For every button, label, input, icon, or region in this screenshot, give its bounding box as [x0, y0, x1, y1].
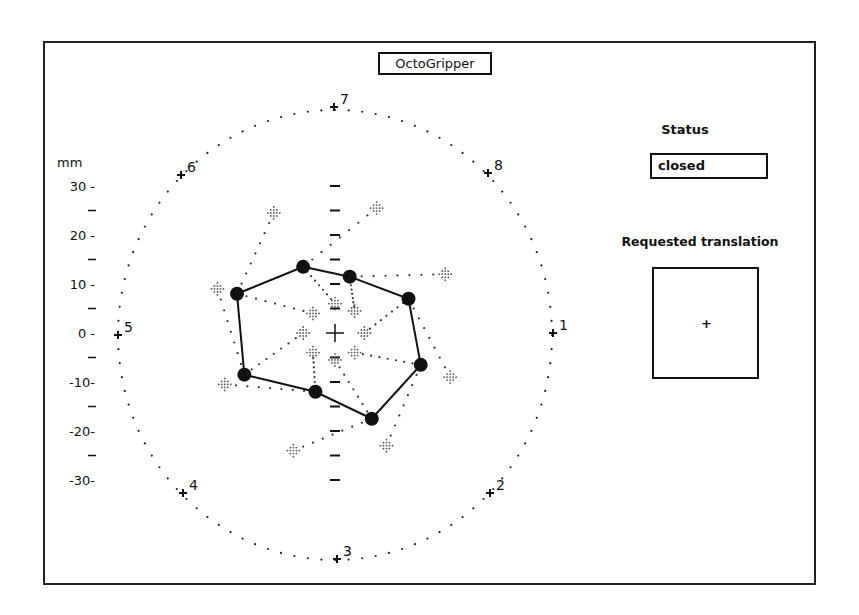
workspace-dot	[492, 488, 494, 490]
workspace-dot	[524, 442, 526, 444]
finger-tip-node[interactable]	[402, 292, 416, 306]
finger-tip-node[interactable]	[343, 270, 357, 284]
axis-tick-label: 0 -	[78, 326, 95, 341]
workspace-dot	[280, 552, 282, 554]
workspace-dot	[388, 116, 390, 118]
linkage-dot	[293, 307, 295, 309]
linkage-dot	[372, 275, 374, 277]
translation-pad[interactable]: +	[652, 267, 759, 379]
workspace-dot	[167, 477, 169, 479]
axis-tick-label: -10-	[69, 375, 95, 390]
linkage-dot	[361, 403, 363, 405]
linkage-dot	[223, 309, 225, 311]
workspace-dot	[206, 516, 208, 518]
linkage-dot	[235, 384, 237, 386]
finger-tip-node[interactable]	[237, 368, 251, 382]
workspace-dot	[229, 531, 231, 533]
workspace-dot	[388, 552, 390, 554]
workspace-dot	[438, 137, 440, 139]
linkage-dot	[263, 232, 265, 234]
workspace-dot	[414, 125, 416, 127]
linkage-dot	[314, 381, 316, 383]
linkage-dot	[245, 272, 247, 274]
workspace-dot	[119, 306, 121, 308]
workspace-dot	[307, 557, 309, 559]
linkage-dot	[233, 341, 235, 343]
workspace-dot	[426, 130, 428, 132]
workspace-dot	[176, 488, 178, 490]
linkage-dot	[420, 274, 422, 276]
workspace-dot	[550, 320, 552, 322]
linkage-dot	[413, 307, 415, 309]
workspace-dot	[167, 190, 169, 192]
linkage-dot	[254, 252, 256, 254]
linkage-dot	[391, 310, 393, 312]
workspace-dot	[375, 113, 377, 115]
finger-tip-node[interactable]	[308, 385, 322, 399]
linkage-dot	[230, 331, 232, 333]
linkage-dot	[259, 242, 261, 244]
workspace-dot	[517, 454, 519, 456]
workspace-dot	[138, 238, 140, 240]
workspace-dot	[119, 362, 121, 364]
inner-pad	[348, 346, 362, 360]
workspace-dot	[307, 111, 309, 113]
linkage-dot	[310, 275, 312, 277]
finger-tip-node[interactable]	[296, 260, 310, 274]
linkage-dot	[352, 297, 354, 299]
workspace-dot	[450, 524, 452, 526]
workspace-dot	[547, 292, 549, 294]
workspace-dot	[144, 226, 146, 228]
workspace-dot	[138, 430, 140, 432]
workspace-dot	[121, 376, 123, 378]
linkage-dot	[396, 306, 398, 308]
linkage-dot	[343, 374, 345, 376]
workspace-dot	[293, 113, 295, 115]
linkage-dot	[274, 303, 276, 305]
linkage-dot	[348, 229, 350, 231]
linkage-dot	[390, 434, 392, 436]
finger-tip-node[interactable]	[365, 412, 379, 426]
status-field: closed	[650, 153, 768, 179]
linkage-dot	[320, 251, 322, 253]
linkage-dot	[378, 356, 380, 358]
outer-pad	[267, 206, 281, 220]
workspace-dot	[509, 466, 511, 468]
workspace-dot	[414, 543, 416, 545]
outer-pad	[443, 370, 457, 384]
workspace-dot	[530, 430, 532, 432]
linkage-dot	[313, 376, 315, 378]
linkage-dot	[341, 430, 343, 432]
workspace-dot	[375, 555, 377, 557]
workspace-dot	[117, 320, 119, 322]
linkage-dot	[280, 348, 282, 350]
inner-pad	[306, 307, 320, 321]
linkage-dot	[269, 387, 271, 389]
linkage-dot	[268, 222, 270, 224]
linkage-dot	[348, 381, 350, 383]
workspace-dot	[128, 403, 130, 405]
linkage-dot	[423, 327, 425, 329]
workspace-dot	[132, 417, 134, 419]
finger-base-label: 2	[496, 477, 505, 493]
workspace-dot	[254, 543, 256, 545]
workspace-dot	[185, 498, 187, 500]
outer-pad	[218, 378, 232, 392]
workspace-dot	[218, 144, 220, 146]
linkage-dot	[258, 386, 260, 388]
linkage-dot	[255, 298, 257, 300]
workspace-dot	[540, 264, 542, 266]
workspace-dot	[472, 507, 474, 509]
axis-tick-label: -30-	[69, 473, 95, 488]
workspace-dot	[132, 251, 134, 253]
linkage-dot	[352, 388, 354, 390]
finger-tip-node[interactable]	[414, 358, 428, 372]
linkage-dot	[302, 310, 304, 312]
linkage-dot	[322, 438, 324, 440]
workspace-dot	[361, 557, 363, 559]
workspace-dot	[124, 390, 126, 392]
workspace-dot	[254, 125, 256, 127]
linkage-dot	[357, 396, 359, 398]
workspace-dot	[218, 524, 220, 526]
finger-tip-node[interactable]	[230, 287, 244, 301]
